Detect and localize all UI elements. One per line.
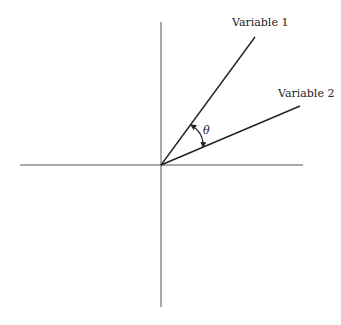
- variable-1-label: Variable 1: [231, 16, 288, 29]
- angle-arc: [191, 125, 203, 147]
- diagram-svg: θ Variable 1 Variable 2: [0, 0, 341, 325]
- angle-label: θ: [203, 124, 210, 137]
- vector-angle-diagram: θ Variable 1 Variable 2: [0, 0, 341, 325]
- variable-2-label: Variable 2: [277, 87, 334, 100]
